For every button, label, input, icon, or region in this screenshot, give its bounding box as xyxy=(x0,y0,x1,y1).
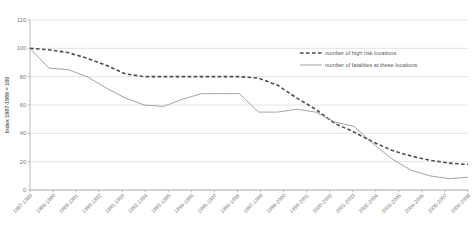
chart-canvas: 020406080100120 1987-19891988-19901989-1… xyxy=(0,0,472,242)
line-chart: 020406080100120 1987-19891988-19901989-1… xyxy=(0,0,472,242)
y-tick-label: 60 xyxy=(20,102,26,108)
y-tick-label: 20 xyxy=(20,159,26,165)
y-tick-label: 40 xyxy=(20,130,26,136)
chart-background xyxy=(0,0,472,242)
y-tick-label: 80 xyxy=(20,74,26,80)
y-tick-label: 100 xyxy=(17,45,26,51)
y-axis-title-text: Index 1987-1989 = 100 xyxy=(4,77,10,134)
y-axis-title: Index 1987-1989 = 100 xyxy=(4,77,10,134)
legend-label-2: number of fatalities at these locations xyxy=(325,62,418,68)
y-tick-label: 0 xyxy=(23,187,26,193)
y-tick-label: 120 xyxy=(17,17,26,23)
legend-label-1: number of high risk locations xyxy=(325,50,396,56)
